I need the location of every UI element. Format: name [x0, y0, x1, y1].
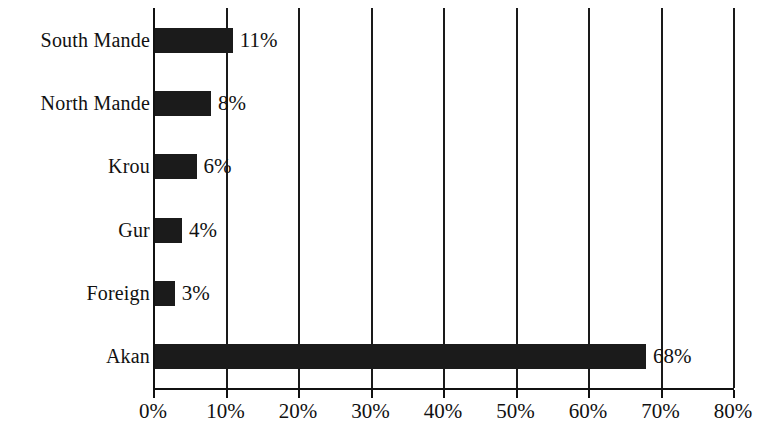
tick-mark: [661, 390, 663, 398]
bar-krou: [153, 154, 197, 179]
tick-mark: [443, 390, 445, 398]
category-label-akan: Akan: [2, 344, 150, 369]
category-label-krou: Krou: [2, 154, 150, 179]
x-axis-tick-label: 30%: [331, 398, 411, 424]
tick-mark: [371, 390, 373, 398]
x-axis-tick-label: 70%: [621, 398, 701, 424]
category-label-wrap: Gur: [0, 218, 150, 243]
x-axis-tick-label: 60%: [548, 398, 628, 424]
bar-north-mande: [153, 91, 211, 116]
category-label-wrap: Krou: [0, 154, 150, 179]
bar-gur: [153, 218, 182, 243]
tick-mark: [153, 390, 155, 398]
value-label-krou: 6%: [204, 154, 232, 179]
y-axis-spine: [153, 8, 155, 388]
gridline-20pct: [298, 8, 300, 388]
category-label-foreign: Foreign: [2, 281, 150, 306]
tick-mark: [226, 390, 228, 398]
category-label-gur: Gur: [2, 218, 150, 243]
category-label-wrap: Foreign: [0, 281, 150, 306]
bar-foreign: [153, 281, 175, 306]
category-label-north-mande: North Mande: [2, 91, 150, 116]
tick-mark: [733, 390, 735, 398]
tick-mark: [298, 390, 300, 398]
x-axis-tick-label: 10%: [186, 398, 266, 424]
x-axis-tick-label: 0%: [113, 398, 193, 424]
value-label-akan: 68%: [653, 344, 692, 369]
value-label-south-mande: 11%: [240, 28, 278, 53]
bar-south-mande: [153, 28, 233, 53]
gridline-60pct: [588, 8, 590, 388]
value-label-gur: 4%: [189, 218, 217, 243]
tick-mark: [516, 390, 518, 398]
gridline-10pct: [226, 8, 228, 388]
value-label-north-mande: 8%: [218, 91, 246, 116]
tick-mark: [588, 390, 590, 398]
category-label-wrap: North Mande: [0, 91, 150, 116]
bar-akan: [153, 344, 646, 369]
plot-area: [153, 8, 733, 388]
category-label-wrap: Akan: [0, 344, 150, 369]
gridline-70pct: [661, 8, 663, 388]
gridline-30pct: [371, 8, 373, 388]
category-label-wrap: South Mande: [0, 28, 150, 53]
x-axis-tick-label: 50%: [476, 398, 556, 424]
bar-chart: 0%10%20%30%40%50%60%70%80% South MandeNo…: [0, 0, 764, 434]
gridline-80pct: [733, 8, 735, 388]
category-label-south-mande: South Mande: [2, 28, 150, 53]
x-axis-tick-label: 40%: [403, 398, 483, 424]
gridline-40pct: [443, 8, 445, 388]
x-axis-tick-label: 20%: [258, 398, 338, 424]
gridline-50pct: [516, 8, 518, 388]
x-axis-tick-label: 80%: [693, 398, 764, 424]
value-label-foreign: 3%: [182, 281, 210, 306]
